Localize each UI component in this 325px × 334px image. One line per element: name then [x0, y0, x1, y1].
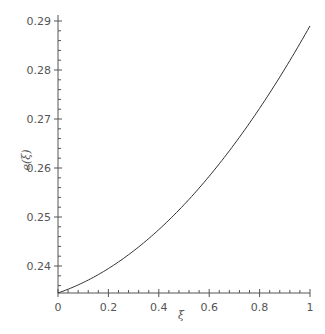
data-line: [58, 26, 310, 293]
y-tick-label: 0.25: [27, 211, 52, 224]
plot-area: 0.240.250.260.270.280.2900.20.40.60.81ξe…: [20, 15, 314, 322]
x-tick-label: 0.4: [150, 301, 168, 314]
x-tick-label: 0.8: [251, 301, 269, 314]
y-tick-label: 0.28: [27, 64, 52, 77]
line-chart: 0.240.250.260.270.280.2900.20.40.60.81ξe…: [0, 0, 325, 334]
x-tick-label: 0: [55, 301, 62, 314]
x-axis-label: ξ: [178, 309, 185, 322]
y-tick-label: 0.27: [27, 113, 52, 126]
x-tick-label: 0.2: [100, 301, 118, 314]
y-tick-label: 0.29: [27, 15, 52, 28]
x-tick-label: 1: [307, 301, 314, 314]
y-tick-label: 0.24: [27, 260, 52, 273]
x-tick-label: 0.6: [200, 301, 218, 314]
y-axis-label: e(ξ): [20, 149, 33, 170]
